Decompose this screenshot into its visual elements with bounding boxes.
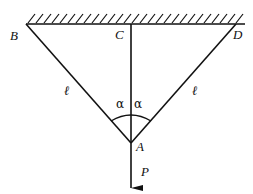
point-label-A: A [135, 139, 144, 154]
suspension-diagram: B C D A P ℓ ℓ α α [0, 0, 253, 194]
point-label-D: D [232, 27, 243, 42]
point-label-C: C [115, 27, 124, 42]
load-label-P: P [140, 164, 149, 179]
ceiling [26, 14, 245, 24]
point-label-B: B [10, 28, 18, 43]
rope-DA [131, 24, 236, 143]
length-label-left: ℓ [64, 83, 70, 98]
angle-label-left: α [116, 97, 124, 111]
length-label-right: ℓ [192, 83, 198, 98]
angle-label-right: α [134, 97, 142, 111]
ceiling-hatching [28, 14, 243, 23]
